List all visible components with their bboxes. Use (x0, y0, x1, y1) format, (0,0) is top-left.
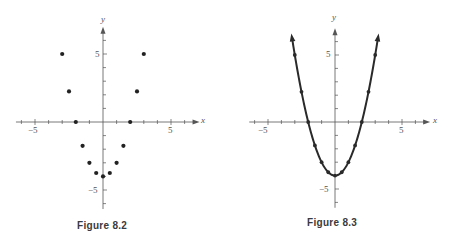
data-point (115, 161, 119, 165)
data-point (320, 160, 324, 164)
y-tick-label-neg5: −5 (88, 185, 98, 195)
y-axis-label: y (101, 14, 105, 24)
data-point (300, 90, 304, 94)
figure-caption: Figure 8.2 (77, 220, 127, 231)
data-point (326, 170, 330, 174)
data-point (121, 144, 125, 148)
data-point (60, 52, 64, 56)
data-point (293, 53, 297, 57)
data-point (108, 171, 112, 175)
x-axis-arrow-icon (423, 120, 430, 125)
data-point (135, 89, 139, 93)
x-tick-label-5: 5 (168, 125, 173, 135)
x-tick-label-neg5: −5 (258, 125, 268, 135)
data-point (128, 120, 132, 124)
scatter-plot (0, 0, 228, 240)
parabola-plot (230, 0, 455, 240)
data-point (87, 161, 91, 165)
x-axis-label: x (201, 115, 205, 125)
data-point (353, 144, 357, 148)
data-point (333, 174, 337, 178)
curve-arrow-right-icon (375, 33, 381, 41)
x-axis-label: x (433, 115, 437, 125)
data-point (306, 120, 310, 124)
data-point (360, 120, 364, 124)
data-point (142, 52, 146, 56)
y-axis-label: y (332, 12, 336, 22)
data-point (74, 120, 78, 124)
y-axis-arrow-icon (101, 27, 106, 34)
data-point (94, 171, 98, 175)
figure-caption: Figure 8.3 (307, 217, 357, 228)
data-point (347, 160, 351, 164)
figure-8-3: x y −5 5 5 −5 Figure 8.3 (230, 0, 455, 240)
data-point (340, 170, 344, 174)
data-point (67, 89, 71, 93)
y-tick-label-5: 5 (326, 49, 331, 59)
x-tick-label-neg5: −5 (28, 125, 38, 135)
curve-arrow-left-icon (290, 33, 296, 41)
data-point (373, 53, 377, 57)
y-tick-label-5: 5 (95, 49, 100, 59)
x-axis-arrow-icon (193, 120, 200, 125)
y-tick-label-neg5: −5 (319, 184, 329, 194)
y-axis-arrow-icon (333, 28, 338, 35)
data-point (367, 90, 371, 94)
data-point (81, 144, 85, 148)
data-point (313, 144, 317, 148)
x-tick-label-5: 5 (399, 125, 404, 135)
figure-8-2: x y −5 5 5 −5 Figure 8.2 (0, 0, 228, 240)
data-point (101, 174, 105, 178)
